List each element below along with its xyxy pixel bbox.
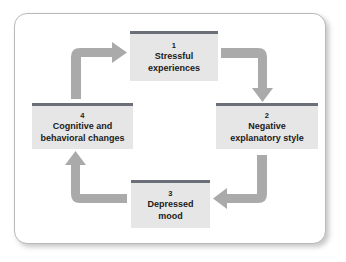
node-4-number: 4 — [80, 111, 84, 121]
node-1-number: 1 — [172, 41, 176, 51]
node-stressful-experiences[interactable]: 1 Stressful experiences — [130, 31, 218, 81]
arrow-4-to-1-icon — [71, 42, 127, 99]
arrow-3-to-4-icon — [65, 151, 127, 203]
node-3-number: 3 — [168, 189, 172, 199]
node-2-number: 2 — [265, 111, 269, 121]
node-2-label: Negative explanatory style — [227, 121, 307, 144]
node-negative-explanatory-style[interactable]: 2 Negative explanatory style — [216, 103, 318, 149]
arrow-2-to-3-icon — [213, 155, 267, 209]
node-4-label: Cognitive and behavioral changes — [37, 121, 127, 144]
diagram-canvas: 1 Stressful experiences 2 Negative expla… — [0, 0, 346, 262]
arrow-1-to-2-icon — [221, 48, 273, 102]
node-depressed-mood[interactable]: 3 Depressed mood — [131, 180, 210, 228]
node-cognitive-behavioral-changes[interactable]: 4 Cognitive and behavioral changes — [32, 103, 133, 149]
node-1-label: Stressful experiences — [145, 51, 203, 74]
node-3-label: Depressed mood — [144, 199, 196, 222]
